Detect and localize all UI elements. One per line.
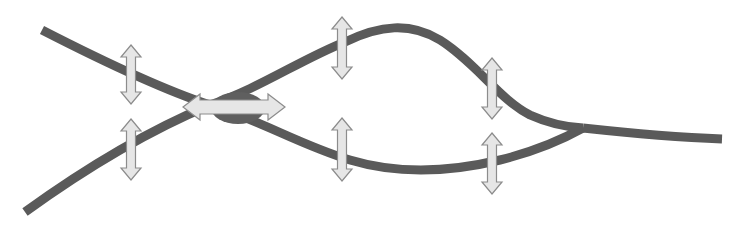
double-arrow-icon-v2-bottom <box>332 118 352 181</box>
strand-merge-diagram <box>0 0 744 231</box>
strand-merged-tail <box>583 128 722 139</box>
